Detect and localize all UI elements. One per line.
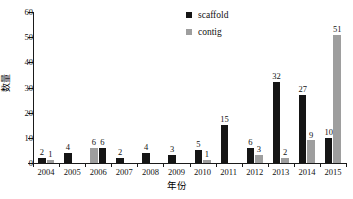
legend-item-contig: contig (186, 25, 228, 39)
x-tick-mark (294, 163, 295, 167)
bar-scaffold-2008 (142, 153, 150, 163)
bar-scaffold-2011 (221, 125, 229, 163)
y-tick-label: 10 (11, 134, 33, 143)
bar-value-label: 27 (293, 85, 313, 94)
x-tick-mark (216, 163, 217, 167)
bar-group: 4 (64, 12, 80, 163)
bar-scaffold-2009 (168, 155, 176, 163)
x-tick-mark (33, 163, 34, 167)
x-tick-mark (163, 163, 164, 167)
x-tick-mark (190, 163, 191, 167)
legend-item-label: scaffold (198, 10, 228, 20)
y-tick-label: 40 (11, 58, 33, 67)
bar-group: 279 (299, 12, 315, 163)
bar-value-label: 2 (275, 148, 295, 157)
bar-value-label: 6 (92, 138, 112, 147)
legend-item-label: contig (198, 27, 222, 37)
bar-value-label: 4 (136, 143, 156, 152)
y-tick-label: 30 (11, 84, 33, 93)
bar-value-label: 32 (267, 72, 287, 81)
bar-scaffold-2007 (116, 158, 124, 163)
bar-group: 3 (168, 12, 184, 163)
legend: scaffoldcontig (186, 8, 228, 42)
square-marker-icon (186, 12, 192, 18)
y-tick: 60 (0, 12, 33, 13)
y-tick-label: 20 (11, 109, 33, 118)
y-tick-label: 60 (11, 8, 33, 17)
y-tick: 10 (0, 138, 33, 139)
x-tick-mark (268, 163, 269, 167)
y-tick-label: 50 (11, 33, 33, 42)
bar-scaffold-2005 (64, 153, 72, 163)
x-tick-mark (59, 163, 60, 167)
bar-value-label: 51 (327, 25, 347, 34)
y-tick-label: 0 (11, 159, 33, 168)
bar-group: 322 (273, 12, 289, 163)
y-axis-title: 数量 (2, 63, 11, 103)
bar-contig-2010 (203, 160, 211, 163)
x-tick-mark (137, 163, 138, 167)
bar-scaffold-2014 (299, 95, 307, 163)
bar-contig-2013 (281, 158, 289, 163)
bar-value-label: 4 (58, 143, 78, 152)
y-tick: 0 (0, 163, 33, 164)
x-tick-mark (346, 163, 347, 167)
bar-contig-2006 (90, 148, 98, 163)
square-marker-icon (186, 29, 192, 35)
bar-group: 66 (90, 12, 106, 163)
bar-value-label: 5 (188, 140, 208, 149)
legend-item-scaffold: scaffold (186, 8, 228, 22)
bar-contig-2004 (47, 160, 55, 163)
x-tick-mark (320, 163, 321, 167)
bar-group: 2 (116, 12, 132, 163)
bar-value-label: 15 (214, 115, 234, 124)
bar-group: 1051 (325, 12, 341, 163)
bar-contig-2014 (307, 140, 315, 163)
bar-contig-2015 (333, 35, 341, 163)
bar-scaffold-2015 (325, 138, 333, 163)
x-tick-mark (111, 163, 112, 167)
x-tick-mark (85, 163, 86, 167)
y-tick: 50 (0, 37, 33, 38)
bar-scaffold-2006 (99, 148, 107, 163)
bar-value-label: 3 (249, 145, 269, 154)
bar-group: 21 (38, 12, 54, 163)
bar-value-label: 3 (162, 145, 182, 154)
bar-contig-2012 (255, 155, 263, 163)
x-tick-label: 2015 (318, 168, 348, 177)
x-tick-mark (242, 163, 243, 167)
bar-value-label: 2 (110, 148, 130, 157)
bar-value-label: 1 (197, 150, 217, 159)
y-tick: 20 (0, 113, 33, 114)
bar-group: 63 (247, 12, 263, 163)
x-axis-title: 年份 (0, 181, 353, 191)
bar-group: 4 (142, 12, 158, 163)
bar-chart: 0102030405060 数量 21466243511563322279105… (0, 0, 353, 199)
